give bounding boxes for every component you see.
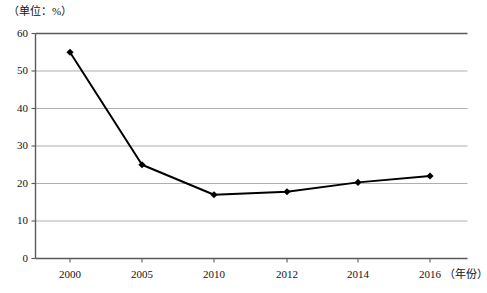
tick-marks	[32, 34, 431, 263]
x-tick-label: 2000	[45, 269, 95, 280]
data-point-marker	[283, 188, 290, 195]
x-tick-label: 2005	[117, 269, 167, 280]
y-tick-label: 30	[4, 140, 28, 151]
gridlines	[36, 34, 468, 259]
y-tick-label: 20	[4, 178, 28, 189]
x-axis-title: （年份）	[444, 269, 487, 280]
data-point-marker	[354, 179, 361, 186]
x-tick-label: 2010	[189, 269, 239, 280]
line-chart: （单位：%） 6050403020100 2000200520102012201…	[0, 0, 487, 293]
y-tick-label: 40	[4, 103, 28, 114]
y-tick-label: 0	[4, 253, 28, 264]
data-point-marker	[426, 172, 433, 179]
data-line	[70, 52, 430, 195]
x-tick-label: 2012	[262, 269, 312, 280]
y-tick-label: 10	[4, 215, 28, 226]
plot-area	[0, 0, 487, 293]
y-tick-label: 50	[4, 65, 28, 76]
data-point-marker	[210, 191, 217, 198]
x-tick-label: 2014	[333, 269, 383, 280]
series-line	[70, 52, 430, 195]
y-tick-label: 60	[4, 28, 28, 39]
